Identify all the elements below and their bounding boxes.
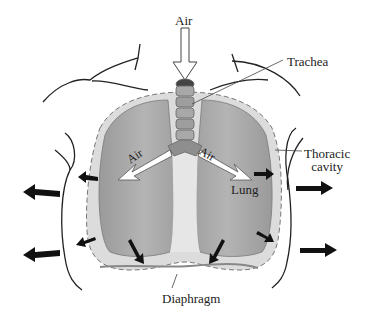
label-lung: Lung (231, 183, 258, 196)
label-trachea: Trachea (287, 55, 328, 68)
label-thoracic-line2: cavity (304, 160, 350, 173)
label-air-inflow: Air (175, 14, 192, 27)
lung-diagram: Air Trachea Thoracic cavity Air Air Lung… (0, 0, 372, 322)
label-thoracic-cavity: Thoracic cavity (304, 147, 350, 173)
label-diaphragm: Diaphragm (162, 292, 220, 305)
air-inflow-arrow (173, 28, 197, 80)
